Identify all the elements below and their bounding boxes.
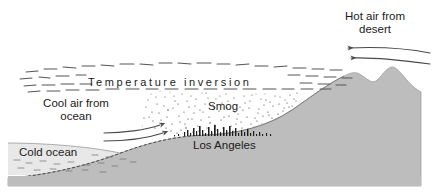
label-temperature-inversion: Temperature inversion [88,76,251,88]
label-cold-ocean: Cold ocean [19,146,77,159]
label-smog: Smog [208,100,238,113]
label-los-angeles: Los Angeles [193,139,256,152]
land-base [8,176,421,186]
inversion-diagram: Hot air from desert Temperature inversio… [0,0,432,195]
label-hot-air-from-desert: Hot air from desert [322,10,428,36]
label-cool-air-from-ocean: Cool air from ocean [22,97,130,123]
